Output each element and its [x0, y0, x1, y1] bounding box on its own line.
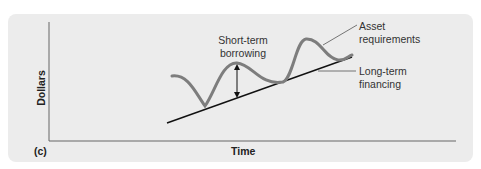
long-term-financing-label: Long-term financing — [359, 65, 407, 91]
asset-line1: Asset — [359, 20, 420, 33]
short-term-line2: borrowing — [213, 47, 273, 60]
asset-line2: requirements — [359, 33, 420, 46]
short-term-line1: Short-term — [213, 34, 273, 47]
long-term-line1: Long-term — [359, 65, 407, 78]
asset-requirements-label: Asset requirements — [359, 20, 420, 46]
long-term-line2: financing — [359, 78, 407, 91]
asset-leader-line — [323, 25, 357, 45]
y-axis-label: Dollars — [35, 70, 47, 106]
x-axis-label: Time — [231, 145, 255, 158]
short-term-borrowing-arrow — [234, 64, 240, 98]
short-term-borrowing-label: Short-term borrowing — [213, 34, 273, 60]
panel-label: (c) — [34, 145, 47, 158]
